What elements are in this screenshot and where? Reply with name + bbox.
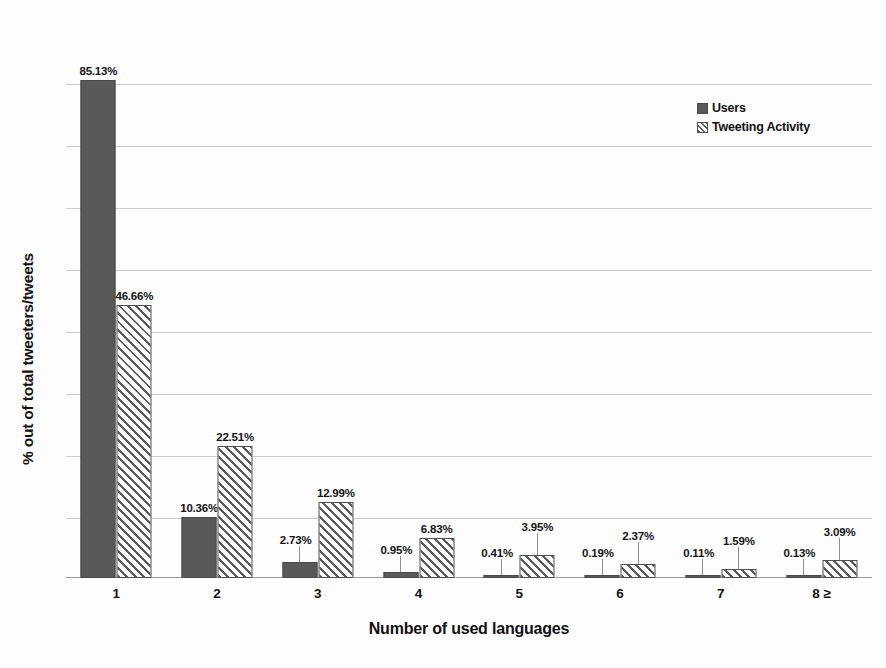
label-leader-line bbox=[501, 559, 502, 575]
bar-value-label: 6.83% bbox=[421, 523, 453, 535]
bar-users[interactable] bbox=[182, 517, 217, 578]
bar-slot: 2.73% bbox=[282, 22, 317, 578]
label-leader-line bbox=[602, 559, 603, 575]
bar-value-label: 2.37% bbox=[622, 530, 654, 542]
legend-item-tweeting-activity: Tweeting Activity bbox=[697, 120, 810, 134]
bar-tweeting-activity[interactable] bbox=[721, 569, 756, 578]
bar-value-label: 0.11% bbox=[683, 547, 714, 559]
bar-value-label: 12.99% bbox=[317, 487, 355, 499]
bar-group: 10.36%22.51% bbox=[167, 22, 268, 578]
bar-group: 2.73%12.99% bbox=[268, 22, 369, 578]
bar-value-label: 3.09% bbox=[824, 526, 856, 538]
y-axis-title: % out of total tweeters/tweets bbox=[19, 194, 37, 524]
x-axis-tick-label: 1 bbox=[66, 586, 167, 601]
legend-label: Tweeting Activity bbox=[712, 120, 810, 134]
x-axis-tick-label: 6 bbox=[570, 586, 671, 601]
bar-value-label: 22.51% bbox=[216, 431, 254, 443]
bar-slot: 2.37% bbox=[621, 22, 656, 578]
bar-group: 85.13%46.66% bbox=[66, 22, 167, 578]
bar-value-label: 10.36% bbox=[180, 502, 218, 514]
label-leader-line bbox=[738, 547, 739, 569]
x-axis-tick-label: 8 ≥ bbox=[771, 586, 872, 601]
label-leader-line bbox=[400, 556, 401, 572]
bar-tweeting-activity[interactable] bbox=[822, 560, 857, 578]
bar-slot: 10.36% bbox=[182, 22, 217, 578]
x-axis-tick-label: 2 bbox=[167, 586, 268, 601]
hatched-square-key-icon bbox=[697, 122, 708, 133]
label-leader-line bbox=[839, 538, 840, 560]
bar-group: 0.41%3.95% bbox=[469, 22, 570, 578]
label-leader-line bbox=[299, 546, 300, 562]
bar-value-label: 1.59% bbox=[723, 535, 755, 547]
bar-tweeting-activity[interactable] bbox=[419, 538, 454, 578]
label-leader-line bbox=[638, 542, 639, 564]
solid-square-key-icon bbox=[697, 103, 708, 114]
chart-legend: Users Tweeting Activity bbox=[697, 101, 810, 139]
bar-slot: 0.95% bbox=[383, 22, 418, 578]
x-axis-tick-label: 3 bbox=[268, 586, 369, 601]
x-axis-tick-label: 4 bbox=[368, 586, 469, 601]
bar-users[interactable] bbox=[685, 575, 720, 578]
bar-slot: 46.66% bbox=[117, 22, 152, 578]
bar-tweeting-activity[interactable] bbox=[621, 564, 656, 578]
bar-value-label: 85.13% bbox=[79, 65, 117, 77]
bar-value-label: 0.95% bbox=[381, 544, 413, 556]
bar-users[interactable] bbox=[383, 572, 418, 578]
bar-slot: 0.41% bbox=[484, 22, 519, 578]
bar-value-label: 0.13% bbox=[784, 547, 816, 559]
bar-value-label: 46.66% bbox=[115, 290, 153, 302]
bar-value-label: 2.73% bbox=[280, 534, 312, 546]
x-axis-tick-labels: 12345678 ≥ bbox=[66, 586, 872, 601]
bar-chart: % out of total tweeters/tweets 85.13%46.… bbox=[0, 0, 886, 668]
label-leader-line bbox=[537, 533, 538, 555]
bar-users[interactable] bbox=[484, 575, 519, 578]
bar-users[interactable] bbox=[786, 575, 821, 578]
bar-slot: 0.19% bbox=[585, 22, 620, 578]
bar-slot: 6.83% bbox=[419, 22, 454, 578]
bar-users[interactable] bbox=[282, 562, 317, 578]
bar-tweeting-activity[interactable] bbox=[520, 555, 555, 578]
x-axis-tick-label: 7 bbox=[671, 586, 772, 601]
label-leader-line bbox=[702, 559, 703, 575]
bar-group: 0.95%6.83% bbox=[368, 22, 469, 578]
bar-tweeting-activity[interactable] bbox=[318, 502, 353, 578]
x-axis-title: Number of used languages bbox=[66, 620, 872, 638]
bar-slot: 3.09% bbox=[822, 22, 857, 578]
label-leader-line bbox=[803, 559, 804, 575]
bar-value-label: 3.95% bbox=[522, 521, 554, 533]
bar-tweeting-activity[interactable] bbox=[117, 305, 152, 578]
legend-item-users: Users bbox=[697, 101, 810, 115]
bar-users[interactable] bbox=[81, 80, 116, 578]
bar-slot: 3.95% bbox=[520, 22, 555, 578]
bar-group: 0.19%2.37% bbox=[570, 22, 671, 578]
bar-tweeting-activity[interactable] bbox=[218, 446, 253, 578]
x-axis-tick-label: 5 bbox=[469, 586, 570, 601]
bar-slot: 85.13% bbox=[81, 22, 116, 578]
bar-slot: 22.51% bbox=[218, 22, 253, 578]
bar-users[interactable] bbox=[585, 575, 620, 578]
legend-label: Users bbox=[712, 101, 746, 115]
bar-value-label: 0.19% bbox=[582, 547, 614, 559]
bar-value-label: 0.41% bbox=[481, 547, 513, 559]
bar-slot: 12.99% bbox=[318, 22, 353, 578]
